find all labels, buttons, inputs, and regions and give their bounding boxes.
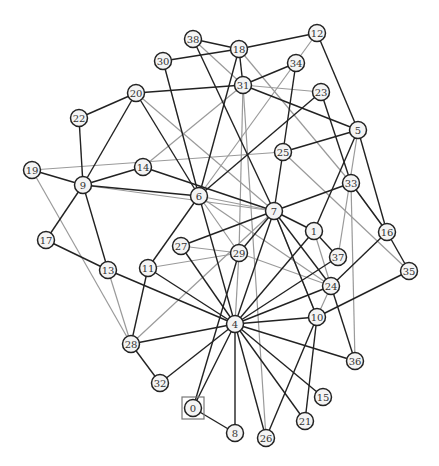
edge-25-5 (283, 130, 358, 152)
node-label: 32 (154, 378, 167, 389)
node-19: 19 (24, 162, 41, 179)
node-label: 27 (175, 241, 188, 252)
node-label: 35 (403, 266, 416, 277)
node-label: 22 (73, 113, 86, 124)
node-37: 37 (330, 249, 347, 266)
edge-9-17 (46, 185, 83, 240)
node-15: 15 (315, 389, 332, 406)
node-label: 7 (271, 206, 277, 217)
node-label: 25 (277, 147, 290, 158)
node-35: 35 (401, 263, 418, 280)
node-25: 25 (275, 144, 292, 161)
edge-11-29 (148, 253, 239, 268)
edge-5-16 (358, 130, 387, 232)
node-31: 31 (235, 77, 252, 94)
edge-9-13 (83, 185, 108, 270)
node-5: 5 (350, 122, 367, 139)
node-17: 17 (38, 232, 55, 249)
node-21: 21 (297, 413, 314, 430)
node-34: 34 (288, 55, 305, 72)
edge-28-4 (131, 324, 235, 344)
node-label: 23 (315, 87, 328, 98)
node-24: 24 (323, 278, 340, 295)
edge-23-33 (321, 92, 351, 183)
edge-20-22 (79, 93, 136, 118)
node-label: 26 (260, 433, 273, 444)
edge-38-7 (193, 39, 274, 211)
node-23: 23 (313, 84, 330, 101)
graph-canvas: 0145678910111213141516171819202122232425… (0, 0, 439, 466)
node-label: 4 (232, 319, 238, 330)
node-label: 15 (317, 392, 330, 403)
node-26: 26 (258, 430, 275, 447)
node-label: 11 (142, 263, 155, 274)
edge-7-24 (274, 211, 331, 286)
node-label: 18 (233, 44, 246, 55)
graph-edges (32, 33, 409, 438)
edge-17-13 (46, 240, 108, 270)
edge-4-36 (235, 324, 355, 361)
edge-32-4 (160, 324, 235, 383)
node-label: 5 (355, 125, 361, 136)
node-14: 14 (135, 159, 152, 176)
node-label: 24 (325, 281, 338, 292)
node-28: 28 (123, 336, 140, 353)
edge-29-24 (239, 253, 331, 286)
node-label: 29 (233, 248, 246, 259)
node-18: 18 (231, 41, 248, 58)
node-29: 29 (231, 245, 248, 262)
node-label: 34 (290, 58, 303, 69)
node-label: 20 (130, 88, 143, 99)
node-label: 13 (102, 265, 115, 276)
node-30: 30 (155, 53, 172, 70)
edge-7-4 (235, 211, 274, 324)
node-label: 10 (311, 312, 324, 323)
node-4: 4 (227, 316, 244, 333)
graph-nodes: 0145678910111213141516171819202122232425… (24, 25, 418, 447)
edge-1-4 (235, 231, 314, 324)
edge-14-7 (143, 167, 274, 211)
node-label: 0 (190, 403, 196, 414)
node-33: 33 (343, 175, 360, 192)
node-11: 11 (140, 260, 157, 277)
node-8: 8 (227, 425, 244, 442)
node-label: 30 (157, 56, 170, 67)
edge-10-4 (235, 317, 317, 324)
node-1: 1 (306, 223, 323, 240)
node-label: 31 (237, 80, 250, 91)
node-label: 36 (349, 356, 362, 367)
edge-9-6 (83, 185, 199, 196)
node-label: 19 (26, 165, 39, 176)
node-label: 21 (299, 416, 312, 427)
node-label: 1 (311, 226, 317, 237)
node-0: 0 (182, 397, 204, 419)
node-27: 27 (173, 238, 190, 255)
edge-13-28 (108, 270, 131, 344)
node-label: 38 (187, 34, 200, 45)
node-10: 10 (309, 309, 326, 326)
node-label: 9 (80, 180, 86, 191)
node-9: 9 (75, 177, 92, 194)
node-22: 22 (71, 110, 88, 127)
node-36: 36 (347, 353, 364, 370)
node-13: 13 (100, 262, 117, 279)
node-32: 32 (152, 375, 169, 392)
edge-31-29 (239, 85, 243, 253)
node-label: 33 (345, 178, 358, 189)
node-7: 7 (266, 203, 283, 220)
edge-5-37 (338, 130, 358, 257)
edge-6-29 (199, 196, 239, 253)
node-label: 14 (137, 162, 150, 173)
edge-7-33 (274, 183, 351, 211)
edge-22-9 (79, 118, 83, 185)
node-16: 16 (379, 224, 396, 241)
edge-11-28 (131, 268, 148, 344)
edge-4-26 (235, 324, 266, 438)
node-label: 28 (125, 339, 138, 350)
edge-20-6 (136, 93, 199, 196)
edge-30-18 (163, 49, 239, 61)
edge-33-36 (351, 183, 355, 361)
node-label: 37 (332, 252, 345, 263)
edge-6-11 (148, 196, 199, 268)
edge-9-7 (83, 185, 274, 211)
